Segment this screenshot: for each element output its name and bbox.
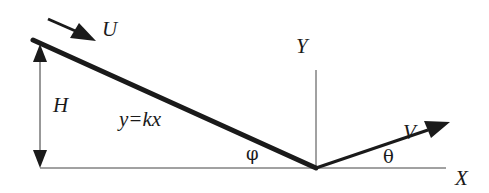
label-angle-phi: φ xyxy=(246,143,259,164)
label-y-axis: Y xyxy=(296,34,310,58)
label-angle-theta: θ xyxy=(383,146,394,167)
height-dimension-arrow xyxy=(33,44,47,168)
label-x-axis: X xyxy=(454,166,469,190)
arrow-head-icon xyxy=(70,23,96,41)
label-h: H xyxy=(52,93,70,117)
label-u: U xyxy=(102,17,119,41)
label-slope-equation: y=kx xyxy=(117,107,162,131)
arrow-down-icon xyxy=(33,150,47,168)
label-v: V xyxy=(403,120,418,144)
incline-line xyxy=(33,40,316,168)
diagram-canvas: U H y=kx Y V X φ θ xyxy=(0,0,489,193)
incoming-velocity-arrow xyxy=(48,19,96,41)
arrow-head-icon xyxy=(424,121,450,138)
